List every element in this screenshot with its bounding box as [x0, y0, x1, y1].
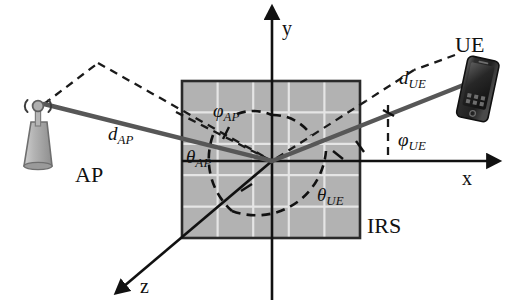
node-label-ue: UE [455, 34, 484, 56]
ap-antenna-mast [35, 110, 40, 126]
angle-subscript-theta-ue: UE [326, 193, 344, 208]
angle-label-phi-ap: φAP [213, 101, 240, 124]
axis-label-y: y [282, 18, 292, 38]
angle-symbol-phi-ap: φ [213, 100, 224, 121]
distance-symbol-d-ap: d [108, 123, 118, 144]
angle-symbol-theta-ap: θ [186, 146, 195, 167]
distance-label-d-ap: dAP [108, 124, 134, 147]
axis-label-z: z [140, 276, 149, 296]
ap-elevation-dashed-upper [44, 63, 98, 104]
distance-subscript-d-ue: UE [409, 76, 427, 91]
angle-subscript-theta-ap: AP [195, 155, 211, 170]
angle-subscript-phi-ue: UE [409, 138, 427, 153]
ue-smartphone-icon [456, 55, 500, 122]
axis-label-x: x [462, 168, 472, 188]
ap-antenna-node [33, 101, 44, 112]
distance-label-d-ue: dUE [399, 68, 426, 91]
angle-label-phi-ue: φUE [398, 130, 426, 153]
angle-symbol-phi-ue: φ [398, 129, 409, 150]
distance-symbol-d-ue: d [399, 67, 409, 88]
distance-subscript-d-ap: AP [118, 132, 134, 147]
angle-label-theta-ue: θUE [317, 185, 344, 208]
ap-antenna-icon [24, 100, 52, 170]
angle-label-theta-ap: θAP [186, 147, 212, 170]
node-label-irs: IRS [367, 215, 401, 237]
angle-subscript-phi-ap: AP [224, 109, 240, 124]
angle-symbol-theta-ue: θ [317, 184, 326, 205]
figure-canvas: y x z AP UE IRS dAP dUE φAP θAP φUE θUE [0, 0, 514, 308]
ap-antenna-base-cone [24, 122, 52, 166]
node-label-ap: AP [75, 164, 103, 186]
diagram-vector-layer [0, 0, 514, 308]
